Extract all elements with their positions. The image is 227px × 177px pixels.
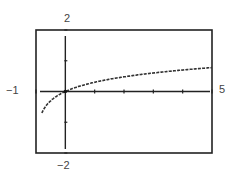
- ymax-label: 2: [64, 13, 70, 24]
- xmax-label: 5: [219, 84, 225, 95]
- ymin-label: −2: [57, 160, 70, 171]
- graph-window: [0, 0, 227, 177]
- function-curve: [42, 68, 212, 113]
- xmin-label: −1: [6, 85, 19, 96]
- axes: [36, 30, 212, 153]
